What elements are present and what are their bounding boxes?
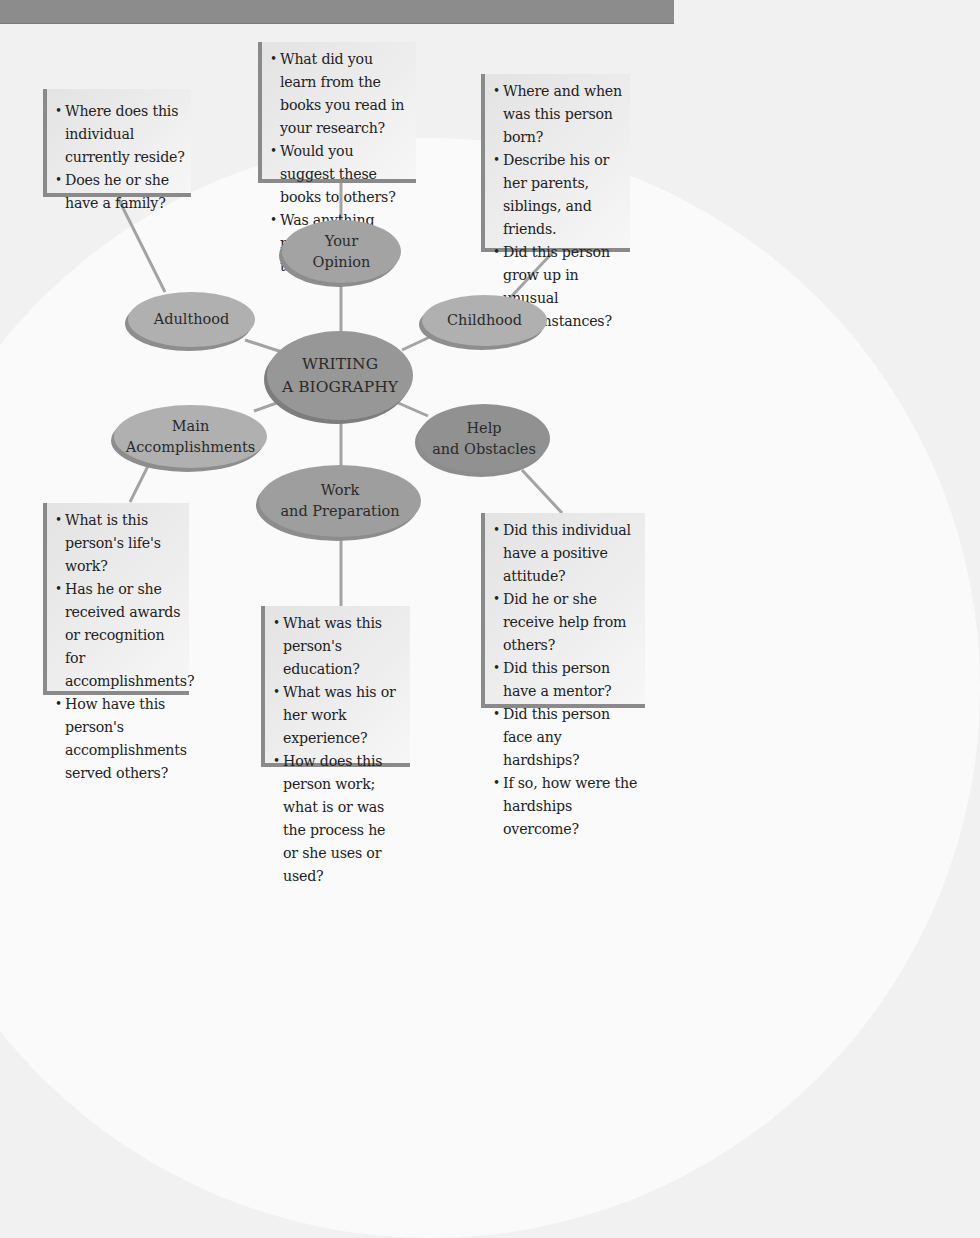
childhood-question: Where and when was this person born? (493, 80, 624, 149)
node-label: Opinion (313, 252, 371, 273)
opinion-question: Would you suggest these books to others? (270, 140, 410, 209)
node-label: Your (313, 231, 371, 252)
adulthood-question: Does he or she have a family? (55, 169, 185, 215)
accomplishments-question: What is this person's life's work? (55, 509, 183, 578)
node-label: Work (280, 480, 399, 501)
work-questions-box: What was this person's education? What w… (261, 606, 410, 767)
help-question: Did this person have a mentor? (493, 657, 639, 703)
help-question: If so, how were the hardships overcome? (493, 772, 639, 841)
node-adulthood: Adulthood (128, 292, 255, 347)
node-label: Main (126, 416, 255, 437)
adulthood-questions-box: Where does this individual currently res… (43, 89, 191, 197)
center-label: A BIOGRAPHY (282, 376, 398, 399)
center-label: WRITING (282, 353, 398, 376)
opinion-questions-box: What did you learn from the books you re… (258, 42, 416, 183)
accomplishments-question: How have this person's accomplishments s… (55, 693, 183, 785)
node-your-opinion: YourOpinion (282, 220, 401, 283)
node-writing-a-biography: WRITINGA BIOGRAPHY (267, 331, 413, 420)
childhood-question: Describe his or her parents, siblings, a… (493, 149, 624, 241)
work-question: What was his or her work experience? (273, 681, 404, 750)
childhood-questions-box: Where and when was this person born? Des… (481, 74, 630, 252)
help-question: Did this individual have a positive atti… (493, 519, 639, 588)
node-label: and Obstacles (432, 439, 536, 460)
work-question: How does this person work; what is or wa… (273, 750, 404, 888)
node-label: Accomplishments (126, 437, 255, 458)
node-work-and-preparation: Workand Preparation (259, 465, 421, 537)
node-label: Adulthood (154, 309, 230, 330)
node-label: Help (432, 418, 536, 439)
node-label: and Preparation (280, 501, 399, 522)
accomplishments-questions-box: What is this person's life's work? Has h… (43, 503, 189, 695)
work-question: What was this person's education? (273, 612, 404, 681)
node-help-and-obstacles: Helpand Obstacles (418, 404, 550, 473)
node-main-accomplishments: MainAccomplishments (114, 405, 267, 468)
node-childhood: Childhood (422, 295, 547, 346)
node-label: Childhood (447, 310, 522, 331)
opinion-question: What did you learn from the books you re… (270, 48, 410, 140)
help-questions-box: Did this individual have a positive atti… (481, 513, 645, 708)
adulthood-question: Where does this individual currently res… (55, 100, 185, 169)
help-question: Did he or she receive help from others? (493, 588, 639, 657)
help-question: Did this person face any hardships? (493, 703, 639, 772)
accomplishments-question: Has he or she received awards or recogni… (55, 578, 183, 693)
